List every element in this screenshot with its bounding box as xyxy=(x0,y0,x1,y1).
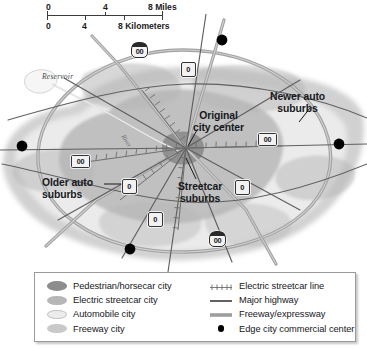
scale-miles-mid: 4 xyxy=(103,2,108,12)
freeway-icon xyxy=(208,310,234,319)
legend-label: Electric streetcar line xyxy=(234,281,324,291)
legend-item-freeway-city: Freeway city xyxy=(46,322,201,336)
shield-number: 0 xyxy=(240,183,244,192)
legend-item-freeway-expressway: Freeway/expressway xyxy=(208,307,353,321)
map-label-older-auto-suburbs: Older auto suburbs xyxy=(42,177,93,200)
legend-item-electric-streetcar-city: Electric streetcar city xyxy=(46,293,201,307)
figure-root: p gure as y the bur- lly, it ularly 0 4 … xyxy=(0,0,367,350)
legend-label: Electric streetcar city xyxy=(68,295,158,305)
map-label-original-city-center: Original city center xyxy=(193,110,244,133)
edge-city-dot-west xyxy=(17,141,28,152)
edge-city-dot-north xyxy=(217,35,228,46)
shield-number: 00 xyxy=(77,157,84,166)
legend-item-automobile-city: Automobile city xyxy=(46,307,201,321)
shield-number: 00 xyxy=(136,47,143,57)
legend-symbol-column: Electric streetcar line Major highway xyxy=(208,279,353,336)
legend-item-major-highway: Major highway xyxy=(208,293,353,307)
zone-swatch-icon xyxy=(46,296,68,306)
shield-us-west: 00 xyxy=(71,155,90,168)
major-highway-icon xyxy=(208,296,234,305)
shield-state-southwest: 0 xyxy=(122,179,137,194)
legend-label: Freeway/expressway xyxy=(234,309,325,319)
legend-label: Major highway xyxy=(234,295,298,305)
shield-interstate-north: 00 xyxy=(131,42,148,58)
shield-state-north: 0 xyxy=(181,62,196,77)
urban-growth-map: Original city center Newer auto suburbs … xyxy=(0,14,367,272)
edge-city-dot-east xyxy=(334,139,345,150)
shield-number: 0 xyxy=(186,65,190,74)
shield-number: 00 xyxy=(214,236,221,246)
map-label-newer-auto-suburbs: Newer auto suburbs xyxy=(270,91,325,114)
shield-us-east: 00 xyxy=(258,133,277,146)
zone-swatch-icon xyxy=(46,310,68,320)
shield-number: 0 xyxy=(153,215,157,224)
edge-city-dot-icon xyxy=(208,325,234,332)
shield-state-southeast: 0 xyxy=(235,180,250,195)
map-label-streetcar-suburbs: Streetcar suburbs xyxy=(178,181,222,204)
map-legend: Pedestrian/horsecar city Electric street… xyxy=(34,272,356,342)
zone-swatch-icon xyxy=(46,324,68,334)
legend-label: Edge city commercial center xyxy=(234,324,354,334)
shield-number: 00 xyxy=(264,135,271,144)
legend-zone-column: Pedestrian/horsecar city Electric street… xyxy=(46,279,201,336)
zone-swatch-icon xyxy=(46,281,68,291)
legend-label: Freeway city xyxy=(68,324,125,334)
edge-city-dot-south xyxy=(125,244,136,255)
streetcar-line-icon xyxy=(208,282,234,291)
legend-label: Automobile city xyxy=(68,309,135,319)
shield-interstate-south: 00 xyxy=(209,231,226,247)
legend-item-electric-streetcar-line: Electric streetcar line xyxy=(208,279,353,293)
legend-label: Pedestrian/horsecar city xyxy=(68,281,172,291)
shield-state-south: 0 xyxy=(148,212,163,227)
shield-number: 0 xyxy=(127,182,131,191)
map-label-reservoir: Reservoir xyxy=(42,71,73,83)
legend-item-pedestrian-horsecar-city: Pedestrian/horsecar city xyxy=(46,279,201,293)
legend-item-edge-city-commercial-center: Edge city commercial center xyxy=(208,322,353,336)
